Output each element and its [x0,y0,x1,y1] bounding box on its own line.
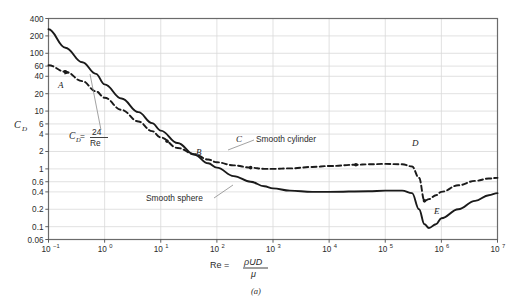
figure-caption: (a) [251,286,261,296]
y-tick-label: 60 [34,62,44,71]
svg-text:0: 0 [109,243,112,249]
stokes-equals: = [80,131,85,141]
stokes-cd-symbol: C [69,131,76,141]
drag-coefficient-figure: 4002001006040201064210.60.40.20.10.06 10… [0,0,515,300]
y-tick-label: 400 [30,15,44,24]
svg-text:10: 10 [378,245,388,254]
x-axis-title-numerator: ρUD [243,257,263,267]
y-tick-label: 100 [30,49,44,58]
stokes-numerator: 24 [92,127,102,137]
smooth-sphere-label: Smooth sphere [146,193,203,203]
svg-text:10: 10 [98,245,108,254]
y-tick-label: 0.1 [32,223,44,232]
svg-text:7: 7 [502,243,505,249]
y-tick-label: 2 [39,147,44,156]
y-tick-label: 4 [39,130,44,139]
y-tick-label: 0.4 [32,188,44,197]
point-label-D: D [411,138,419,148]
svg-text:10: 10 [266,245,276,254]
svg-text:10: 10 [322,245,332,254]
y-axis-title-main: C [14,119,21,130]
marker-point-E [423,199,427,203]
point-label-E: E [433,206,440,216]
marker-point-C [249,166,253,170]
svg-text:10: 10 [154,245,164,254]
point-label-B: B [196,147,202,157]
drag-coefficient-chart: 4002001006040201064210.60.40.20.10.06 10… [0,0,515,300]
svg-text:10: 10 [434,245,444,254]
y-tick-label: 6 [39,120,44,129]
svg-text:10: 10 [42,245,52,254]
marker-point-D [354,163,358,167]
x-axis-title-prefix: Re = [210,260,229,270]
svg-text:−1: −1 [53,243,60,249]
svg-text:10: 10 [210,245,220,254]
marker-point-B [165,140,169,144]
stokes-denominator: Re [90,138,101,148]
y-tick-label: 20 [34,90,44,99]
x-axis-title-denominator: μ [250,269,256,279]
point-label-C: C [236,134,243,144]
figure-background [0,0,515,300]
y-tick-label: 10 [34,107,44,116]
y-tick-label: 200 [30,32,44,41]
y-tick-label: 0.2 [32,205,44,214]
svg-text:10: 10 [491,245,501,254]
y-tick-label: 40 [34,72,44,81]
svg-text:3: 3 [278,243,281,249]
y-tick-label: 0.6 [32,178,44,187]
svg-text:6: 6 [446,243,449,249]
svg-text:5: 5 [390,243,393,249]
y-axis-title-sub: D [21,125,27,133]
point-label-A: A [57,80,64,90]
y-tick-label: 0.06 [28,236,44,245]
smooth-cylinder-label: Smooth cylinder [256,134,316,144]
y-tick-label: 1 [39,165,44,174]
svg-text:2: 2 [221,243,224,249]
svg-text:1: 1 [165,243,168,249]
